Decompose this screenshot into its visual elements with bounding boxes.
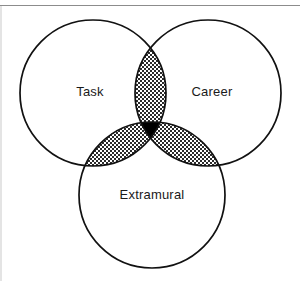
venn-diagram-canvas: Task Career Extramural bbox=[0, 0, 300, 281]
label-task: Task bbox=[76, 84, 104, 99]
label-career: Career bbox=[192, 84, 233, 99]
label-extramural: Extramural bbox=[120, 187, 185, 202]
venn-diagram-figure: Task Career Extramural bbox=[0, 0, 300, 281]
